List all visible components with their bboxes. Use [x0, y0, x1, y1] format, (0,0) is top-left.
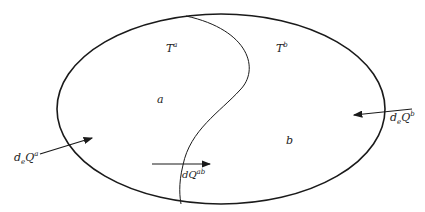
heat-label-deQa: deQa — [14, 151, 38, 166]
region-label-b: b — [286, 135, 293, 146]
q: Q — [25, 151, 34, 164]
dq: dQ — [182, 169, 197, 180]
d: d — [14, 151, 21, 164]
diagram-canvas: Ta Tb a b deQa dQab deQb — [0, 0, 425, 212]
temperature-label-a: Ta — [166, 42, 178, 54]
d: d — [390, 111, 397, 124]
diagram-shapes — [0, 0, 425, 212]
sup: a — [34, 150, 38, 158]
q: Q — [401, 111, 410, 124]
temp-sup: b — [283, 41, 287, 49]
sup: ab — [197, 168, 206, 176]
temperature-label-b: Tb — [276, 42, 288, 54]
heat-label-dQab: dQab — [182, 169, 205, 180]
region-label-a: a — [157, 94, 164, 105]
temp-sup: a — [173, 41, 177, 49]
sup: b — [410, 110, 414, 118]
heat-label-deQb: deQb — [390, 111, 415, 126]
